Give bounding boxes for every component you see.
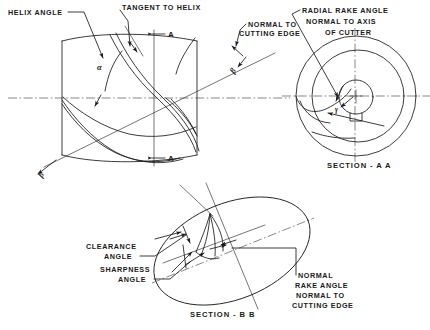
normal-to-cutting-edge-line1: NORMAL TO [248, 20, 297, 29]
section-mark-a-top: A [168, 30, 174, 39]
normal-rake-angle-leader [232, 248, 296, 275]
helix-flute-front-a [110, 35, 196, 152]
normal-to-cutting-edge-line2: CUTTING EDGE [239, 29, 301, 38]
clearance-angle-line2: ANGLE [104, 252, 132, 261]
helix-flute-lower-a [62, 100, 183, 163]
normal-rake-arrow-a [210, 245, 226, 249]
clearance-angle-leader [140, 235, 186, 256]
helix-angle-arc [105, 51, 122, 91]
cutter-body-helix-view: β β A A α HELIX ANGLE TANGENT TO HELIX [8, 3, 301, 180]
tangent-line [125, 26, 143, 56]
section-bb-view: CLEARANCE ANGLE SHARPNESS ANGLE NORMAL R… [86, 176, 354, 326]
helix-angle-label: HELIX ANGLE [8, 8, 63, 17]
alpha-symbol: α [97, 62, 102, 72]
engineering-drawing: β β A A α HELIX ANGLE TANGENT TO HELIX [0, 0, 430, 330]
beta-symbol-top: β [227, 66, 239, 76]
normal-rake-line1: NORMAL [298, 271, 333, 280]
section-mark-a-bottom: A [168, 154, 174, 163]
section-bb-arrow-right-2 [238, 57, 246, 67]
helix-flute-right-b [171, 99, 197, 136]
sharpness-angle-line1: SHARPNESS [100, 265, 150, 274]
normal-rake-line4: CUTTING EDGE [292, 301, 354, 310]
section-bb-title: SECTION - B B [190, 310, 255, 319]
radial-rake-angle-line2: NORMAL TO AXIS [306, 17, 376, 26]
section-bb-arrow-left [38, 160, 56, 174]
section-aa-title: SECTION - A A [327, 161, 391, 170]
radial-rake-arrow-c [328, 113, 384, 126]
figure-canvas: β β A A α HELIX ANGLE TANGENT TO HELIX [0, 0, 430, 330]
normal-rake-line3: NORMAL TO [296, 291, 345, 300]
radial-rake-angle-line1: RADIAL RAKE ANGLE [302, 6, 388, 15]
sharpness-angle-line2: ANGLE [118, 275, 146, 284]
clearance-angle-line1: CLEARANCE [86, 242, 137, 251]
tangent-arrow [130, 42, 137, 52]
helix-angle-arrow-lower [95, 95, 101, 106]
normal-rake-line2: RAKE ANGLE [295, 281, 348, 290]
helix-flute-lower-b [62, 104, 180, 162]
radial-rake-angle-line3: OF CUTTER [325, 28, 372, 37]
helix-flute-mid [63, 97, 196, 136]
section-bb-arrow-right [232, 46, 243, 56]
tangent-to-helix-label: TANGENT TO HELIX [122, 3, 201, 12]
section-bb-trace-a [180, 185, 213, 216]
helix-flute-top-right [176, 38, 195, 74]
section-aa-view: γ RADIAL RAKE ANGLE NORMAL TO AXIS OF CU… [282, 6, 430, 170]
sharpness-angle-leader [154, 262, 190, 279]
beta-symbol-bottom: β [35, 170, 47, 180]
gamma-symbol: γ [335, 105, 339, 114]
tooth-land-line [201, 214, 210, 255]
section-bb-trace-b [206, 183, 258, 309]
tangent-to-helix-leader [120, 10, 130, 46]
sharpness-angle-tie [183, 245, 186, 268]
